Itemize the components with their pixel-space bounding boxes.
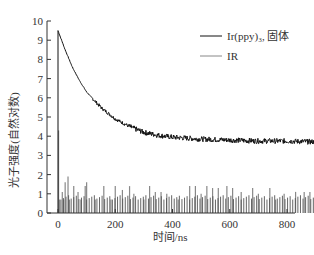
- y-tick-label: 1: [38, 188, 44, 200]
- legend-label-ir: IR: [227, 50, 239, 62]
- y-tick-label: 10: [32, 15, 44, 27]
- x-tick-label: 800: [279, 218, 296, 230]
- y-tick-label: 2: [38, 169, 44, 181]
- y-tick-label: 8: [38, 53, 44, 65]
- x-axis-label: 时间/ns: [153, 231, 188, 243]
- irppy-decay-line: [58, 31, 314, 213]
- x-tick-label: 0: [55, 218, 61, 230]
- y-tick-label: 7: [38, 73, 44, 85]
- y-tick-label: 6: [38, 92, 44, 104]
- y-axis: 012345678910: [32, 15, 51, 219]
- legend: Ir(ppy)₃, 固体 IR: [200, 29, 290, 62]
- plot-area: [58, 31, 314, 213]
- y-tick-label: 9: [38, 34, 44, 46]
- y-axis-label: 光子强度(自然对数): [7, 92, 21, 188]
- x-tick-label: 600: [222, 218, 239, 230]
- y-tick-label: 0: [38, 207, 44, 219]
- chart: 012345678910 0200400600800 时间/ns 光子强度(自然…: [0, 0, 314, 255]
- x-tick-label: 400: [164, 218, 181, 230]
- legend-label-irppy: Ir(ppy)₃, 固体: [227, 29, 290, 43]
- y-tick-label: 4: [38, 130, 44, 142]
- y-tick-label: 3: [38, 149, 44, 161]
- y-tick-label: 5: [38, 111, 44, 123]
- x-tick-label: 200: [107, 218, 124, 230]
